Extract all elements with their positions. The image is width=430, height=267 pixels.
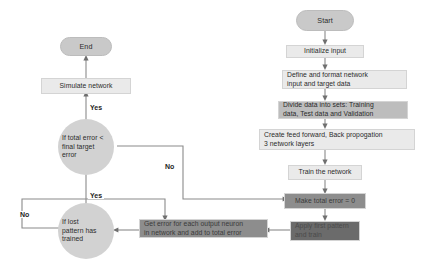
node-if-last-pattern-trained[interactable]: If lost pattern has trained xyxy=(58,203,114,259)
node-end[interactable]: End xyxy=(60,37,112,56)
node-if-total-error[interactable]: If total error < final target error xyxy=(58,119,114,175)
edge-label-yes-last-pattern: Yes xyxy=(88,192,104,199)
node-train-network[interactable]: Train the network xyxy=(288,165,362,180)
node-divide-data[interactable]: Divide data into sets: Training data, Te… xyxy=(278,101,408,119)
edge-label-no-last-pattern: No xyxy=(18,211,31,218)
node-create-feedforward[interactable]: Create feed forward, Back propogation 3 … xyxy=(259,129,415,150)
flowchart-canvas: Start Initialize input Define and format… xyxy=(0,0,430,267)
node-make-total-error-zero[interactable]: Make total error = 0 xyxy=(284,193,366,209)
edge-label-no-total-error: No xyxy=(163,163,176,170)
edge-totalerror-no-loop xyxy=(117,146,284,199)
edge-label-yes-simulate: Yes xyxy=(88,104,104,111)
node-apply-first-pattern[interactable]: Apply first pattern and train xyxy=(290,221,360,241)
node-start[interactable]: Start xyxy=(296,10,354,31)
node-get-error[interactable]: Get error for each output neuron in netw… xyxy=(139,219,268,238)
node-define-format[interactable]: Define and format network input and targ… xyxy=(282,70,407,89)
node-simulate-network[interactable]: Simulate network xyxy=(41,78,131,94)
node-initialize-input[interactable]: Initialize input xyxy=(286,45,364,58)
